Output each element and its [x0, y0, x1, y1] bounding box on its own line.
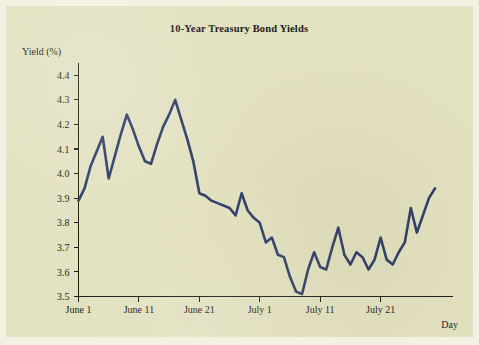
line-chart: 10-Year Treasury Bond Yields Yield (%) D…	[6, 6, 473, 337]
x-tick-label: July 21	[366, 304, 395, 315]
y-tick-label: 4.2	[57, 119, 70, 130]
y-tick-label: 3.6	[57, 267, 70, 278]
x-tick-label: June 1	[66, 304, 92, 315]
y-tick-label: 4.4	[57, 70, 70, 81]
y-tick-label: 4.1	[57, 144, 70, 155]
y-tick-label: 3.5	[57, 291, 70, 302]
x-tick-label: July 1	[248, 304, 272, 315]
chart-page: 10-Year Treasury Bond Yields Yield (%) D…	[0, 0, 479, 345]
figure-panel: 10-Year Treasury Bond Yields Yield (%) D…	[6, 6, 473, 337]
y-tick-label: 4.0	[57, 168, 70, 179]
y-axis-title: Yield (%)	[22, 46, 61, 58]
y-axis-ticks: 3.53.63.73.83.94.04.14.24.34.4	[57, 70, 79, 302]
axis-lines	[79, 63, 454, 297]
x-tick-label: July 11	[306, 304, 335, 315]
chart-title: 10-Year Treasury Bond Yields	[170, 23, 308, 34]
y-tick-label: 3.8	[57, 217, 70, 228]
x-axis-ticks: June 1June 11June 21July 1July 11July 21	[66, 297, 396, 315]
series-line-treasury-yield	[79, 100, 436, 294]
y-tick-label: 3.9	[57, 193, 70, 204]
x-tick-label: June 11	[124, 304, 154, 315]
y-tick-label: 4.3	[57, 94, 70, 105]
y-tick-label: 3.7	[57, 242, 70, 253]
x-tick-label: June 21	[184, 304, 215, 315]
x-axis-title: Day	[441, 319, 458, 330]
